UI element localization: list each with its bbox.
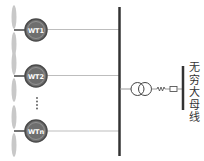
wind-turbine-1: WT1: [12, 5, 120, 56]
turbine-label-wt1: WT1: [28, 27, 45, 35]
turbine-label-wtn: WTn: [28, 128, 45, 136]
inductor-icon: [170, 87, 177, 92]
transformer-icon: [131, 83, 152, 96]
resistor-icon: [157, 87, 165, 91]
wind-turbine-2: WT2: [12, 51, 120, 102]
blade-icon: [12, 78, 17, 102]
blade-icon: [12, 51, 17, 75]
wind-turbine-n: WTn: [12, 105, 120, 157]
turbine-label-wt2: WT2: [28, 73, 44, 81]
infinite-bus-label: 无穷大母线: [187, 62, 201, 125]
blade-icon: [12, 105, 17, 129]
ellipsis-dots: [36, 97, 38, 109]
blade-icon: [12, 133, 17, 157]
blade-icon: [12, 5, 17, 29]
single-line-diagram: WT1 WT2 WTn: [0, 0, 204, 161]
